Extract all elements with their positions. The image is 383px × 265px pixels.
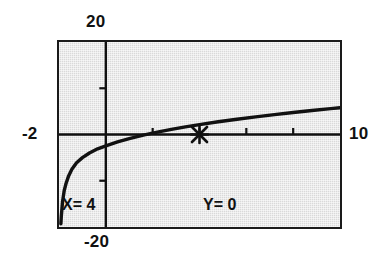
- trace-x-readout: X= 4: [62, 196, 95, 214]
- trace-cursor-icon: [191, 126, 208, 143]
- x-max-label: 10: [349, 124, 368, 144]
- calculator-graph-screen: 20 -20 -2 10 X= 4 Y= 0: [0, 0, 383, 265]
- trace-y-readout: Y= 0: [203, 196, 236, 214]
- plot-canvas: [59, 42, 340, 227]
- data-curve: [61, 108, 340, 224]
- x-min-label: -2: [22, 124, 38, 144]
- y-min-label: -20: [84, 232, 109, 252]
- y-max-label: 20: [86, 12, 105, 32]
- plot-frame: [57, 40, 342, 229]
